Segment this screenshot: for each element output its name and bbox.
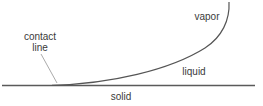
contact-line-diagram: contact line vapor liquid solid [0, 0, 263, 106]
vapor-label: vapor [194, 11, 220, 22]
contact-label-line1: contact [24, 31, 56, 42]
diagram-canvas: contact line vapor liquid solid [0, 0, 263, 106]
liquid-label: liquid [182, 66, 205, 77]
solid-label: solid [111, 91, 132, 102]
contact-line-pointer [41, 54, 57, 83]
contact-label-line2: line [32, 42, 48, 53]
